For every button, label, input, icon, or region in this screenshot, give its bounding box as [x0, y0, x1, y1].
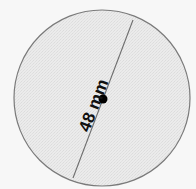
circle-diameter-figure: 48 mm [0, 0, 196, 189]
